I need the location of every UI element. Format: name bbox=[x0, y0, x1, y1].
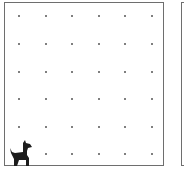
grid-dot[interactable] bbox=[124, 98, 126, 100]
grid-dot[interactable] bbox=[18, 126, 20, 128]
grid-dot[interactable] bbox=[18, 15, 20, 17]
grid-dot[interactable] bbox=[151, 15, 153, 17]
grid-dot[interactable] bbox=[45, 15, 47, 17]
grid-dot[interactable] bbox=[45, 98, 47, 100]
grid-dot[interactable] bbox=[71, 126, 73, 128]
grid-dot[interactable] bbox=[45, 43, 47, 45]
grid-dot[interactable] bbox=[45, 126, 47, 128]
grid-dot[interactable] bbox=[71, 43, 73, 45]
secondary-panel bbox=[181, 2, 184, 166]
grid-dot[interactable] bbox=[71, 15, 73, 17]
grid-dot[interactable] bbox=[98, 126, 100, 128]
grid-dot[interactable] bbox=[71, 153, 73, 155]
grid-dot[interactable] bbox=[124, 71, 126, 73]
grid-dot[interactable] bbox=[98, 98, 100, 100]
grid-dot[interactable] bbox=[151, 98, 153, 100]
grid-dot[interactable] bbox=[151, 126, 153, 128]
grid-dot[interactable] bbox=[124, 153, 126, 155]
grid-dot[interactable] bbox=[124, 126, 126, 128]
game-grid[interactable] bbox=[4, 2, 164, 166]
grid-dot[interactable] bbox=[18, 71, 20, 73]
dog-icon bbox=[8, 139, 34, 167]
grid-dot[interactable] bbox=[45, 71, 47, 73]
grid-dot[interactable] bbox=[71, 71, 73, 73]
grid-dot[interactable] bbox=[151, 153, 153, 155]
grid-dot[interactable] bbox=[18, 98, 20, 100]
grid-dot[interactable] bbox=[98, 71, 100, 73]
grid-dot[interactable] bbox=[151, 71, 153, 73]
grid-dot[interactable] bbox=[151, 43, 153, 45]
grid-dot[interactable] bbox=[124, 43, 126, 45]
grid-dot[interactable] bbox=[45, 153, 47, 155]
grid-dot[interactable] bbox=[98, 153, 100, 155]
grid-dot[interactable] bbox=[98, 43, 100, 45]
grid-dot[interactable] bbox=[71, 98, 73, 100]
grid-dot[interactable] bbox=[98, 15, 100, 17]
grid-dot[interactable] bbox=[124, 15, 126, 17]
grid-dot[interactable] bbox=[18, 43, 20, 45]
